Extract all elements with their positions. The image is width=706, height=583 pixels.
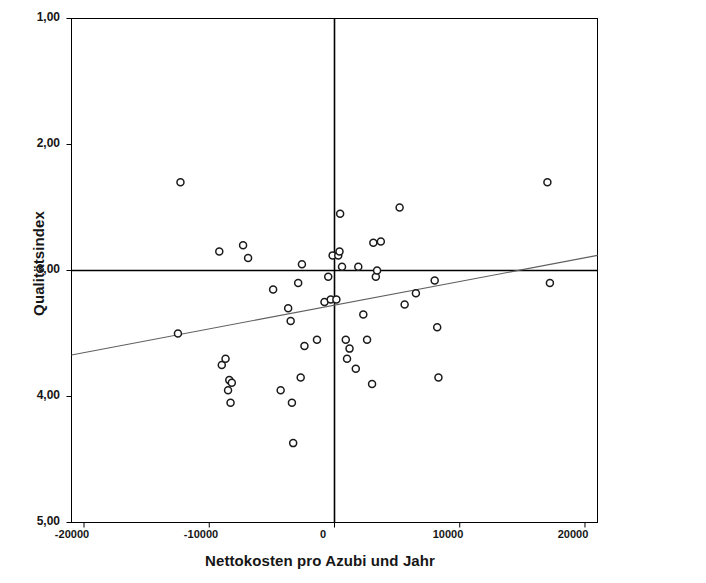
data-point	[227, 399, 234, 406]
data-point	[434, 324, 441, 331]
data-point	[369, 380, 376, 387]
data-point	[277, 387, 284, 394]
plot-canvas	[0, 0, 706, 583]
data-point	[225, 387, 232, 394]
data-point	[355, 263, 362, 270]
data-point	[287, 317, 294, 324]
data-point	[297, 374, 304, 381]
data-point	[290, 440, 297, 447]
data-point	[352, 365, 359, 372]
data-point	[313, 336, 320, 343]
data-point	[374, 267, 381, 274]
data-point	[339, 263, 346, 270]
data-point	[270, 286, 277, 293]
data-point	[435, 374, 442, 381]
data-point	[364, 336, 371, 343]
data-point	[216, 248, 223, 255]
data-point	[544, 179, 551, 186]
data-point	[336, 248, 343, 255]
data-point	[298, 261, 305, 268]
data-point	[346, 345, 353, 352]
data-point	[174, 330, 181, 337]
data-point	[396, 204, 403, 211]
data-point	[177, 179, 184, 186]
data-point	[228, 379, 235, 386]
data-point	[360, 311, 367, 318]
data-point	[344, 355, 351, 362]
data-point	[401, 301, 408, 308]
data-point	[377, 238, 384, 245]
data-point	[431, 277, 438, 284]
data-point	[295, 280, 302, 287]
data-point	[546, 280, 553, 287]
data-point	[337, 210, 344, 217]
data-point	[301, 343, 308, 350]
data-point	[412, 290, 419, 297]
scatter-plot-figure: Qualitätsindex Nettokosten pro Azubi und…	[0, 0, 706, 583]
data-point	[245, 254, 252, 261]
data-point	[288, 399, 295, 406]
data-point	[325, 273, 332, 280]
data-point	[240, 242, 247, 249]
data-point	[370, 239, 377, 246]
data-point	[342, 336, 349, 343]
data-point	[222, 355, 229, 362]
data-point	[285, 305, 292, 312]
data-point	[333, 296, 340, 303]
